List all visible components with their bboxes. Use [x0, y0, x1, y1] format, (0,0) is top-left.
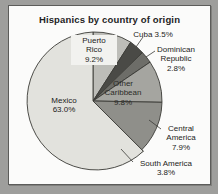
pie-label-south-america: South America 3.8%: [125, 159, 207, 178]
pie-label-dominican-republic: Dominican Republic 2.8%: [145, 45, 207, 73]
pie-label-puerto-rico: Puerto Rico 9.2%: [71, 35, 117, 65]
pie-label-other-caribbean: Other Caribbean 9.8%: [97, 79, 149, 107]
chart-panel: Hispanics by country of origin: [8, 5, 211, 185]
pie-label-cuba: Cuba 3.5%: [119, 30, 187, 39]
pie-label-central-america: Central America 7.9%: [157, 124, 205, 152]
chart-panel-inner: Hispanics by country of origin: [9, 6, 210, 184]
screenshot-root: Hispanics by country of origin: [0, 0, 218, 194]
pie-label-mexico: Mexico 63.0%: [36, 96, 92, 115]
